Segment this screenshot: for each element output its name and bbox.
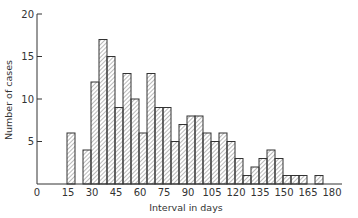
histogram-bar (195, 116, 203, 184)
histogram-bar (115, 108, 123, 185)
histogram-bar (187, 116, 195, 184)
histogram-bar (219, 133, 227, 184)
histogram-bar (259, 159, 267, 185)
histogram-bar (267, 150, 275, 184)
y-tick-label: 15 (21, 51, 34, 62)
histogram-bar (131, 99, 139, 184)
histogram-bar (179, 125, 187, 185)
histogram-bar (227, 142, 235, 185)
y-ticks: 5101520 (21, 9, 42, 148)
histogram-bar (139, 133, 147, 184)
histogram-bar (235, 159, 243, 185)
x-tick-label: 150 (274, 187, 293, 198)
histogram-bar (251, 167, 259, 184)
histogram-bar (243, 176, 251, 185)
histogram-chart: 5101520 0153045607590105120135150165180 … (0, 0, 358, 218)
histogram-bar (299, 176, 307, 185)
x-tick-label: 30 (86, 187, 99, 198)
x-tick-label: 45 (110, 187, 123, 198)
y-tick-label: 10 (21, 94, 34, 105)
x-tick-label: 105 (202, 187, 221, 198)
y-tick-label: 5 (28, 136, 34, 147)
histogram-bar (315, 176, 323, 185)
histogram-bar (123, 74, 131, 185)
chart-canvas: 5101520 0153045607590105120135150165180 … (0, 0, 358, 218)
x-tick-label: 180 (322, 187, 341, 198)
histogram-bar (171, 142, 179, 185)
x-tick-label: 15 (62, 187, 75, 198)
x-tick-label: 135 (250, 187, 269, 198)
x-tick-label: 165 (298, 187, 317, 198)
x-tick-label: 120 (226, 187, 245, 198)
histogram-bar (99, 40, 107, 185)
histogram-bars (67, 40, 323, 185)
histogram-bar (291, 176, 299, 185)
histogram-bar (83, 150, 91, 184)
x-tick-label: 90 (182, 187, 195, 198)
histogram-bar (203, 133, 211, 184)
x-axis-title: Interval in days (149, 202, 223, 213)
y-axis-title: Number of cases (3, 60, 14, 140)
histogram-bar (155, 108, 163, 185)
y-tick-label: 20 (21, 9, 34, 20)
histogram-bar (275, 159, 283, 185)
histogram-bar (147, 74, 155, 185)
histogram-bar (107, 57, 115, 185)
histogram-bar (67, 133, 75, 184)
x-tick-label: 0 (34, 187, 40, 198)
histogram-bar (211, 142, 219, 185)
histogram-bar (91, 82, 99, 184)
x-tick-label: 75 (158, 187, 171, 198)
histogram-bar (163, 108, 171, 185)
x-tick-label: 60 (134, 187, 147, 198)
histogram-bar (283, 176, 291, 185)
x-tick-labels: 0153045607590105120135150165180 (34, 187, 342, 198)
